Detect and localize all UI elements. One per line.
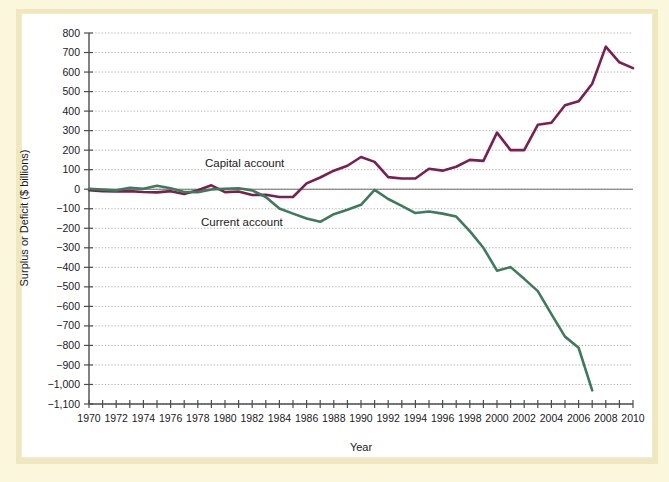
y-tick-label: 800 [62,27,80,39]
x-tick-label: 1988 [322,412,346,424]
x-tick-label: 1974 [132,412,156,424]
x-tick-label: 1982 [241,412,265,424]
x-tick-label: 2000 [485,412,509,424]
y-tick-label: 500 [62,85,80,97]
series-label-capital-account: Capital account [205,157,285,169]
y-tick-label: −600 [56,300,80,312]
x-tick-label: 2008 [594,412,618,424]
y-tick-label: −700 [56,319,80,331]
y-tick-label: 0 [74,183,80,195]
y-axis-ticks-group: 8007006005004003002001000−100−200−300−40… [48,27,93,410]
gridlines-group [89,33,633,404]
y-tick-label: −500 [56,280,80,292]
x-tick-label: 2006 [567,412,591,424]
y-tick-label: −300 [56,241,80,253]
y-tick-label: 200 [62,144,80,156]
x-tick-label: 1978 [186,412,210,424]
x-tick-label: 2010 [621,412,645,424]
x-tick-label: 1992 [377,412,401,424]
x-tick-label: 1986 [295,412,319,424]
series-line-capital-account [89,47,633,197]
y-tick-label: −1,100 [48,398,81,410]
y-tick-label: 100 [62,163,80,175]
x-tick-label: 1970 [77,412,101,424]
figure-page: 8007006005004003002001000−100−200−300−40… [0,0,669,482]
y-tick-label: 300 [62,124,80,136]
x-tick-label: 1990 [349,412,373,424]
series-line-current-account [89,186,592,391]
x-tick-label: 1976 [159,412,183,424]
series-label-current-account: Current account [201,216,284,228]
x-axis-title: Year [350,441,373,453]
y-tick-label: 700 [62,46,80,58]
y-tick-label: 400 [62,105,80,117]
y-tick-label: −800 [56,339,80,351]
x-tick-label: 2004 [540,412,564,424]
y-tick-label: −900 [56,359,80,371]
y-tick-label: −400 [56,261,80,273]
x-tick-label: 1994 [404,412,428,424]
y-tick-label: 600 [62,66,80,78]
x-tick-label: 1980 [213,412,237,424]
y-tick-label: −100 [56,202,80,214]
x-tick-label: 1972 [105,412,129,424]
x-tick-label: 1984 [268,412,292,424]
x-tick-label: 1996 [431,412,455,424]
y-tick-label: −1,000 [48,378,81,390]
x-tick-label: 2002 [513,412,537,424]
y-axis-title: Surplus or Deficit ($ billions) [18,150,30,287]
x-tick-label: 1998 [458,412,482,424]
y-tick-label: −200 [56,222,80,234]
line-chart: 8007006005004003002001000−100−200−300−40… [0,0,669,482]
chart-root: 8007006005004003002001000−100−200−300−40… [0,0,669,482]
